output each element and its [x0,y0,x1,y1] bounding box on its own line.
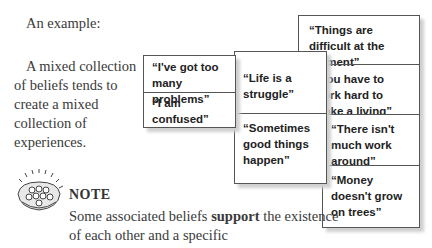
belief-life-struggle: “Life is a struggle” [235,52,326,113]
note-text-start: Some associated beliefs [69,208,211,224]
belief-box-left: “I've got too many problems” “I am confu… [143,55,236,128]
belief-too-many-problems: “I've got too many problems” [144,56,235,92]
belief-box-middle: “Life is a struggle” “Sometimes good thi… [234,51,327,184]
note-text-bold: support [211,208,259,224]
belief-no-work: “There isn't much work around” [323,115,419,165]
shell-icon [14,168,64,216]
paragraph: A mixed collection of beliefs tends to c… [14,57,139,152]
belief-confused: “I am confused” [144,92,235,127]
intro-text: An example: [26,14,101,33]
belief-good-things: “Sometimes good things happen” [235,113,326,183]
note-text: Some associated beliefs support the exis… [69,207,339,245]
note-heading: NOTE [69,187,111,203]
